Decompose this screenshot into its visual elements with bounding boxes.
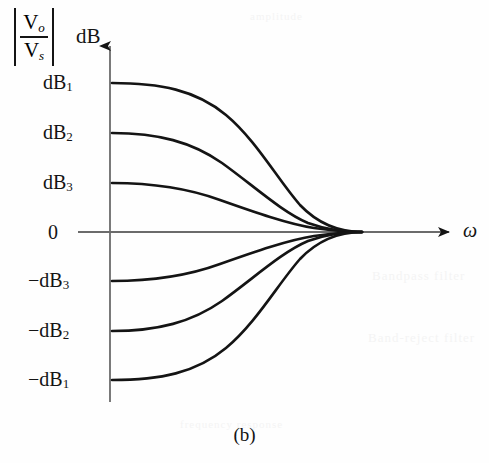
y-tick-label: dB3	[43, 171, 73, 196]
response-curve	[112, 232, 362, 380]
response-curve	[112, 83, 362, 232]
y-tick-label: dB2	[43, 121, 73, 146]
y-tick-label: −dB3	[28, 269, 69, 294]
plot-area	[0, 0, 489, 463]
figure-container: Bandpass filter Band-reject filter ampli…	[0, 0, 489, 463]
y-tick-label: −dB1	[28, 368, 69, 393]
response-curve	[112, 133, 362, 232]
response-curve	[112, 232, 362, 331]
y-tick-label: dB1	[43, 71, 73, 96]
y-tick-label: 0	[48, 221, 58, 244]
y-tick-label: −dB2	[28, 319, 69, 344]
